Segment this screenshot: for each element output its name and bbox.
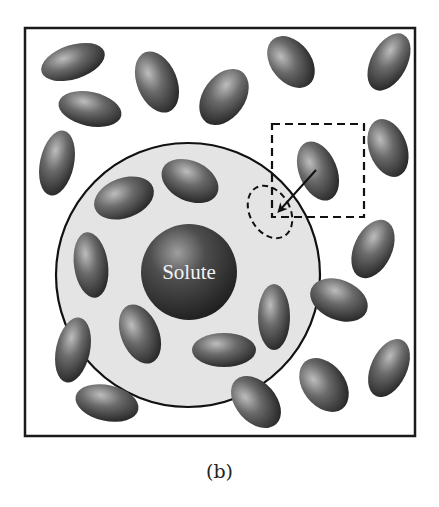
solvent-molecule (258, 284, 290, 350)
figure-caption: (b) (0, 460, 439, 482)
solvation-diagram: Solute (0, 0, 439, 507)
solute-label: Solute (162, 260, 216, 284)
solvent-molecule (192, 333, 256, 367)
